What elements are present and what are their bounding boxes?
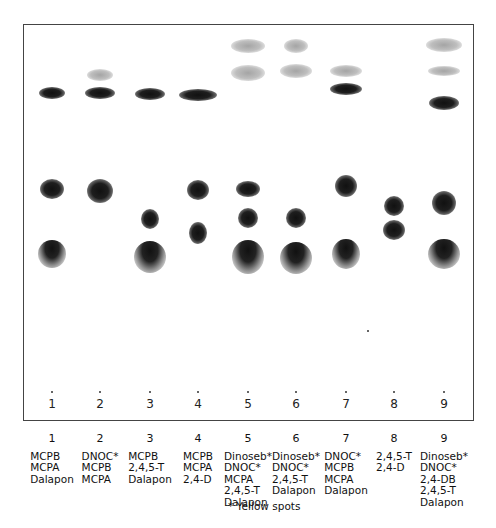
spot-lane-2 — [87, 69, 113, 81]
compound-name: MCPB — [324, 462, 368, 474]
lane-label-7: 7DNOC*MCPBMCPADalapon — [324, 433, 368, 497]
footnote-yellow-spots: * Yellow spots — [228, 500, 300, 512]
lane-label-6: 6Dinoseb*DNOC*2,4,5-TDalapon — [272, 433, 320, 497]
compound-name: Dalapon — [324, 485, 368, 497]
compound-list: MCPBMCPADalapon — [30, 451, 74, 486]
lane-number: 7 — [324, 433, 368, 445]
compound-name: Dalapon — [30, 474, 74, 486]
spot-lane-6 — [280, 242, 312, 274]
compound-name: 2,4,5-T — [128, 462, 172, 474]
lane-number: 2 — [82, 433, 119, 445]
compound-name: 2,4,5-T — [224, 485, 272, 497]
lane-label-1: 1MCPBMCPADalapon — [30, 433, 74, 485]
spot-lane-1 — [40, 179, 64, 199]
spot-lane-5 — [238, 208, 258, 228]
spot-lane-3 — [135, 88, 165, 100]
spot-lane-6 — [284, 39, 308, 53]
lane-number: 8 — [376, 433, 412, 445]
spot-lane-3 — [141, 209, 159, 229]
origin-dot — [295, 391, 297, 393]
spot-lane-9 — [432, 191, 456, 215]
spot-lane-2 — [85, 87, 115, 99]
lane-number-on-plate: 8 — [390, 397, 398, 411]
compound-name: 2,4,5-T — [420, 485, 468, 497]
compound-list: Dinoseb*DNOC*2,4,5-TDalapon — [272, 451, 320, 497]
origin-dot — [149, 391, 151, 393]
lane-number-on-plate: 6 — [292, 397, 300, 411]
lane-number-on-plate: 9 — [440, 397, 448, 411]
lane-number: 6 — [272, 433, 320, 445]
spot-lane-5 — [232, 240, 264, 274]
lane-label-3: 3MCPB2,4,5-TDalapon — [128, 433, 172, 485]
lane-number: 4 — [183, 433, 213, 445]
spot-lane-7 — [330, 65, 362, 77]
lane-label-8: 82,4,5-T2,4-D — [376, 433, 412, 474]
compound-list: DNOC*MCPBMCPA — [82, 451, 119, 486]
spot-lane-9 — [429, 96, 459, 110]
lane-number-on-plate: 4 — [194, 397, 202, 411]
spot-lane-7 — [335, 175, 357, 197]
compound-name: MCPA — [82, 474, 119, 486]
lane-number: 9 — [420, 433, 468, 445]
compound-name: Dalapon — [128, 474, 172, 486]
spot-lane-6 — [280, 64, 312, 78]
lane-number: 5 — [224, 433, 272, 445]
origin-dot — [443, 391, 445, 393]
spot-lane-4 — [187, 180, 209, 200]
spot-lane-8 — [383, 220, 405, 240]
compound-name: MCPA — [30, 462, 74, 474]
lane-label-5: 5Dinoseb*DNOC*MCPA2,4,5-TDalapon — [224, 433, 272, 508]
spot-lane-8 — [384, 196, 404, 216]
compound-list: DNOC*MCPBMCPADalapon — [324, 451, 368, 497]
compound-name: DNOC* — [224, 462, 272, 474]
lane-label-4: 4MCPBMCPA2,4-D — [183, 433, 213, 485]
spot-lane-6 — [286, 208, 306, 228]
spot-lane-1 — [39, 87, 65, 99]
origin-dot — [247, 391, 249, 393]
compound-list: 2,4,5-T2,4-D — [376, 451, 412, 474]
compound-name: DNOC* — [272, 462, 320, 474]
spot-lane-7 — [332, 239, 360, 269]
compound-list: MCPB2,4,5-TDalapon — [128, 451, 172, 486]
spot-lane-5 — [231, 39, 265, 53]
lane-number-on-plate: 1 — [48, 397, 56, 411]
lane-number-on-plate: 7 — [342, 397, 350, 411]
spot-lane-7 — [330, 83, 362, 95]
compound-name: MCPB — [82, 462, 119, 474]
compound-name: 2,4-D — [376, 462, 412, 474]
spot-lane-2 — [87, 179, 113, 203]
origin-dot — [51, 391, 53, 393]
spot-lane-9 — [428, 239, 460, 269]
lane-number: 1 — [30, 433, 74, 445]
compound-list: Dinoseb*DNOC*2,4-DB2,4,5-TDalapon — [420, 451, 468, 509]
lane-label-2: 2DNOC*MCPBMCPA — [82, 433, 119, 485]
compound-name: DNOC* — [420, 462, 468, 474]
origin-dot — [197, 391, 199, 393]
lane-number-on-plate: 2 — [96, 397, 104, 411]
compound-name: 2,4-D — [183, 474, 213, 486]
lane-label-9: 9Dinoseb*DNOC*2,4-DB2,4,5-TDalapon — [420, 433, 468, 508]
spot-lane-4 — [189, 222, 207, 244]
compound-name: MCPA — [183, 462, 213, 474]
spot-lane-5 — [231, 65, 265, 81]
spot-lane-9 — [428, 66, 460, 76]
compound-name: Dalapon — [420, 497, 468, 509]
lane-number: 3 — [128, 433, 172, 445]
origin-dot — [345, 391, 347, 393]
spot-lane-1 — [38, 240, 66, 268]
compound-list: MCPBMCPA2,4-D — [183, 451, 213, 486]
lane-number-on-plate: 3 — [146, 397, 154, 411]
spot-lane-5 — [236, 181, 260, 197]
stray-dot — [367, 330, 369, 332]
spot-lane-9 — [426, 38, 462, 52]
origin-dot — [393, 391, 395, 393]
lane-number-on-plate: 5 — [244, 397, 252, 411]
compound-name: Dalapon — [272, 485, 320, 497]
origin-dot — [99, 391, 101, 393]
spot-lane-4 — [179, 89, 217, 101]
spot-lane-3 — [134, 241, 166, 273]
